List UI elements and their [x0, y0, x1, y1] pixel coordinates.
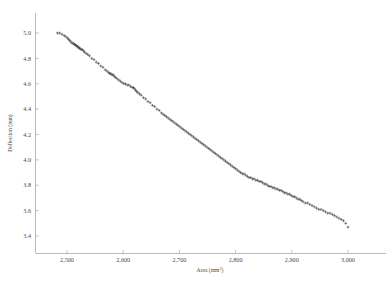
x-tick-label: 2,800 [229, 256, 243, 263]
y-tick-label: 4.2 [23, 131, 31, 138]
x-tick-label: 2,500 [60, 256, 74, 263]
y-tick-label: 5.0 [23, 29, 31, 36]
x-tick-label: 2,600 [116, 256, 130, 263]
y-tick-label: 4.0 [23, 156, 31, 163]
scatter-plot-canvas: 2,5002,6002,7002,8002,9003,000 3.43.63.8… [0, 0, 392, 285]
x-tick-label: 2,900 [285, 256, 299, 263]
chart-figure: 2,5002,6002,7002,8002,9003,000 3.43.63.8… [0, 0, 392, 285]
y-tick-label: 4.4 [23, 105, 31, 112]
y-tick-label: 3.4 [23, 232, 31, 239]
y-tick-label: 4.6 [23, 80, 31, 87]
x-axis-ticks: 2,5002,6002,7002,8002,9003,000 [60, 250, 355, 263]
axis-layer [36, 13, 387, 254]
x-tick-label: 3,000 [341, 256, 355, 263]
y-tick-label: 4.8 [23, 55, 31, 62]
data-markers-layer [56, 32, 349, 229]
data-point-marker [347, 226, 350, 229]
x-axis-title-close: ) [222, 267, 224, 274]
y-tick-label: 3.8 [23, 181, 31, 188]
x-axis-title-main: Area (mm [197, 267, 220, 274]
x-tick-label: 2,700 [172, 256, 186, 263]
y-axis-ticks: 3.43.63.84.04.24.44.64.85.0 [23, 29, 39, 239]
y-tick-label: 3.6 [23, 207, 31, 214]
y-axis-title: Deflection (mm) [7, 114, 14, 152]
x-axis-title: Area (mm2) [197, 266, 224, 274]
data-point-marker [344, 222, 347, 225]
